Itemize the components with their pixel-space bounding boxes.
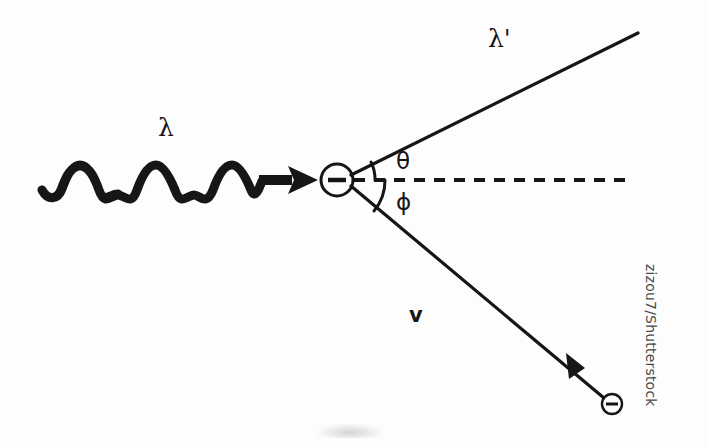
credit-watermark: zizou7/Shutterstock [643, 264, 659, 434]
diagram-canvas [0, 0, 707, 448]
scattered-photon-label: λ' [488, 24, 511, 53]
recoil-electron-ray [351, 186, 604, 398]
phi-angle-label: ϕ [396, 189, 411, 215]
velocity-vector-label: v [409, 303, 423, 327]
scattered-photon-ray [351, 33, 638, 175]
phi-arc [374, 180, 385, 211]
theta-angle-label: θ [396, 148, 410, 174]
incident-photon-label: λ [158, 113, 174, 142]
incident-photon-wave [42, 165, 262, 199]
background-smudge [318, 424, 382, 438]
incident-arrow-head [288, 166, 318, 194]
compton-scattering-diagram: λ λ' θ ϕ v zizou7/Shutterstock [0, 0, 707, 448]
